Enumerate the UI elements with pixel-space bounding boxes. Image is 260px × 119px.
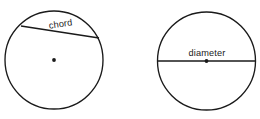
chord-circle-center-dot xyxy=(52,58,56,62)
diameter-label: diameter xyxy=(189,48,226,58)
circle-with-chord-group: chord xyxy=(5,11,103,109)
diameter-circle-center-dot xyxy=(205,59,209,63)
circle-diagram: chord diameter xyxy=(0,0,260,119)
circle-with-diameter-group: diameter xyxy=(158,12,256,110)
figure-canvas: chord diameter xyxy=(0,0,260,119)
